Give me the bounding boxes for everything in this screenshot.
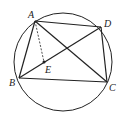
circumcircle xyxy=(14,13,112,111)
label-C: C xyxy=(109,82,116,93)
segment-BC xyxy=(19,78,107,82)
label-B: B xyxy=(9,77,15,88)
label-D: D xyxy=(103,18,112,29)
geometry-diagram: A B C D E xyxy=(0,0,121,117)
label-E: E xyxy=(44,64,51,75)
label-A: A xyxy=(27,9,35,20)
